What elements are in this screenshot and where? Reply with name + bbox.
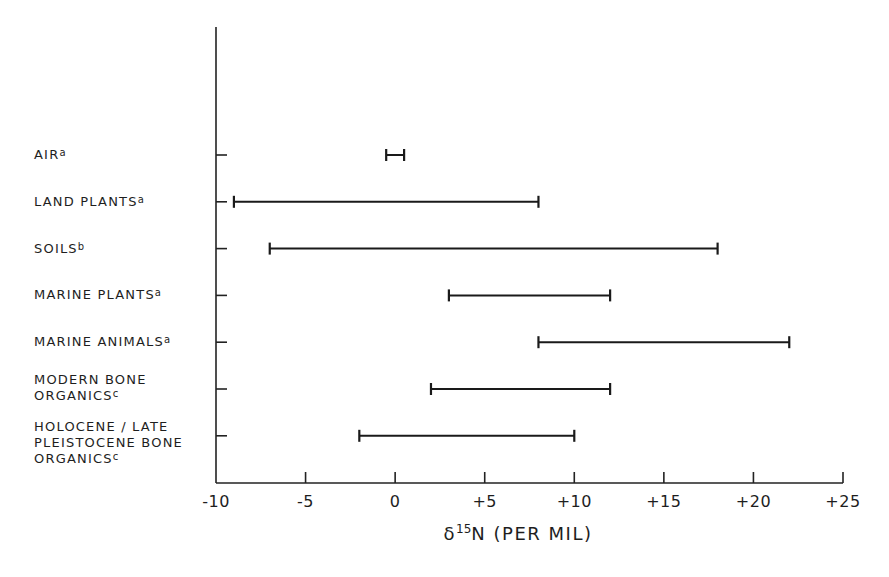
category-label-line: PLEISTOCENE BONE [34,435,183,450]
range-bar [449,289,610,301]
category-label-line: HOLOCENE / LATE [34,419,168,434]
footnote-marker: b [78,241,84,252]
footnote-marker: c [113,451,119,462]
x-tick-label: +5 [472,492,497,511]
category-label-line: MODERN BONE [34,372,147,387]
x-tick-label: +10 [557,492,592,511]
category-label: LAND PLANTSa [34,194,144,210]
footnote-marker: a [155,287,161,298]
x-tick-label: +15 [646,492,681,511]
x-tick-label: 0 [390,492,401,511]
category-label-line: LAND PLANTS [34,194,138,209]
range-bar [270,243,718,255]
x-tick-label: +20 [736,492,771,511]
x-axis-title: δ15N (PER MIL) [444,522,593,544]
range-bar [386,149,404,161]
range-bar [234,196,539,208]
range-bar [431,383,610,395]
footnote-marker: a [164,334,170,345]
category-label-line: ORGANICS [34,451,113,466]
category-label-line: SOILS [34,241,78,256]
footnote-marker: c [113,388,119,399]
footnote-marker: a [59,147,65,158]
category-label-line: MARINE PLANTS [34,287,155,302]
category-label: MARINE ANIMALSa [34,334,170,350]
range-bar [538,336,789,348]
category-label-line: MARINE ANIMALS [34,334,164,349]
category-label: MODERN BONEORGANICSc [34,372,147,404]
x-tick-label: -10 [202,492,230,511]
category-label: HOLOCENE / LATEPLEISTOCENE BONEORGANICSc [34,419,183,467]
x-tick-label: +25 [825,492,860,511]
category-label-line: AIR [34,147,59,162]
category-label: AIRa [34,147,66,163]
category-label: MARINE PLANTSa [34,287,161,303]
footnote-marker: a [138,194,144,205]
category-label: SOILSb [34,241,84,257]
category-label-line: ORGANICS [34,388,113,403]
range-bar [359,430,574,442]
x-tick-label: -5 [297,492,314,511]
